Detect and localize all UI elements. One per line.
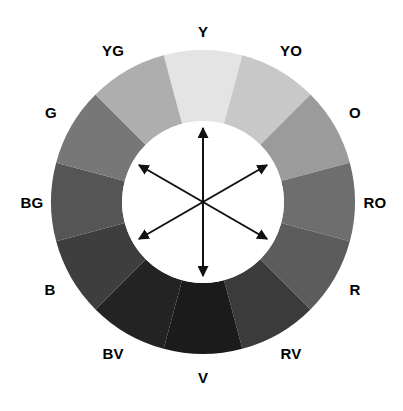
wheel-label-o: O: [349, 105, 361, 120]
color-wheel-svg: [0, 0, 403, 411]
wheel-label-ro: RO: [364, 195, 387, 210]
wheel-label-rv: RV: [281, 346, 302, 361]
wheel-label-b: B: [44, 282, 55, 297]
wheel-label-yg: YG: [102, 43, 124, 58]
wheel-label-r: R: [349, 282, 360, 297]
wheel-label-v: V: [198, 370, 208, 385]
wheel-label-bg: BG: [21, 195, 44, 210]
wheel-label-bv: BV: [102, 346, 123, 361]
wheel-label-y: Y: [198, 24, 208, 39]
wheel-label-g: G: [45, 105, 57, 120]
color-wheel-figure: YYOORORRVVBVBBGGYG: [0, 0, 403, 411]
wheel-label-yo: YO: [280, 43, 302, 58]
